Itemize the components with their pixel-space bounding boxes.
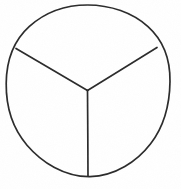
scan-noise-overlay (0, 0, 181, 189)
figure-container: Circle divided into three equal sectors … (0, 0, 181, 189)
circle-thirds-diagram (0, 0, 181, 189)
